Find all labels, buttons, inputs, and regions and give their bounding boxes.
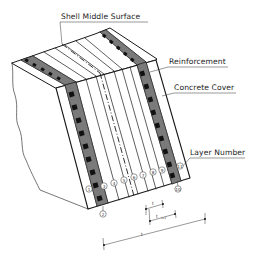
svg-text:5: 5 [123, 178, 126, 183]
svg-text:11: 11 [177, 164, 183, 169]
leader-concrete-cover [162, 93, 236, 96]
label-concrete-cover: Concrete Cover [174, 84, 234, 92]
svg-text:2: 2 [102, 212, 105, 217]
svg-text:t: t [141, 232, 143, 237]
svg-text:9: 9 [161, 168, 164, 173]
dimension-ticks [103, 203, 206, 246]
label-shell-middle-surface: Shell Middle Surface [61, 13, 140, 21]
svg-text:10: 10 [175, 187, 181, 192]
dimension-lines [103, 200, 205, 250]
leader-reinforcement [150, 67, 228, 72]
svg-text:i+1: i+1 [161, 216, 166, 220]
reinforcement-left-top [21, 56, 76, 85]
svg-text:3: 3 [103, 184, 106, 189]
svg-text:1: 1 [88, 187, 91, 192]
svg-text:t: t [156, 214, 158, 219]
label-reinforcement: Reinforcement [169, 58, 226, 66]
shell-diagram: 1 3 4 5 6 7 8 9 11 2 10 [0, 0, 255, 262]
shell-element-figure: 1 3 4 5 6 7 8 9 11 2 10 [0, 0, 255, 262]
label-layer-number: Layer Number [190, 149, 245, 157]
svg-text:t: t [152, 201, 154, 206]
svg-text:4: 4 [113, 181, 116, 186]
leader-layer-number [181, 158, 245, 168]
svg-text:8: 8 [152, 170, 155, 175]
dimension-texts: t t i+1 t [141, 201, 166, 237]
svg-text:6: 6 [133, 175, 136, 180]
svg-text:7: 7 [142, 173, 145, 178]
